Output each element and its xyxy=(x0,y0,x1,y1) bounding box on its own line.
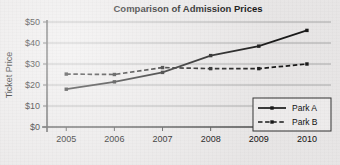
y-axis-tick-label: $10 xyxy=(25,101,40,111)
data-point-marker xyxy=(161,66,164,69)
data-point-marker xyxy=(161,71,164,74)
legend-marker xyxy=(270,106,273,109)
series-line-park-b xyxy=(66,64,307,75)
y-axis-tick-label: $50 xyxy=(25,17,40,27)
x-axis-tick-label: 2008 xyxy=(201,134,221,144)
y-axis-tick-label: $0 xyxy=(30,122,40,132)
x-axis-tick-label: 2010 xyxy=(297,134,317,144)
y-axis-tick-label: $30 xyxy=(25,59,40,69)
y-axis-label: Ticket Price xyxy=(4,52,14,99)
x-axis-tick-label: 2006 xyxy=(104,134,124,144)
data-point-marker xyxy=(209,54,212,57)
data-point-marker xyxy=(113,80,116,83)
data-point-marker xyxy=(209,67,212,70)
y-axis-tick-label: $40 xyxy=(25,38,40,48)
chart-title: Comparison of Admission Prices xyxy=(113,3,262,14)
x-axis-tick-label: 2005 xyxy=(56,134,76,144)
series-line-park-a xyxy=(66,30,307,89)
data-point-marker xyxy=(305,29,308,32)
legend-marker xyxy=(270,120,273,123)
data-point-marker xyxy=(113,73,116,76)
x-axis-tick-label: 2007 xyxy=(153,134,173,144)
line-chart: Comparison of Admission PricesTicket Pri… xyxy=(0,0,340,165)
chart-container: Comparison of Admission PricesTicket Pri… xyxy=(0,0,340,165)
data-point-marker xyxy=(65,88,68,91)
data-point-marker xyxy=(257,44,260,47)
data-point-marker xyxy=(65,72,68,75)
legend-label-2: Park B xyxy=(292,117,318,127)
data-point-marker xyxy=(305,62,308,65)
x-axis-tick-label: 2009 xyxy=(249,134,269,144)
y-axis-tick-label: $20 xyxy=(25,80,40,90)
legend-label-1: Park A xyxy=(292,103,317,113)
data-point-marker xyxy=(257,67,260,70)
